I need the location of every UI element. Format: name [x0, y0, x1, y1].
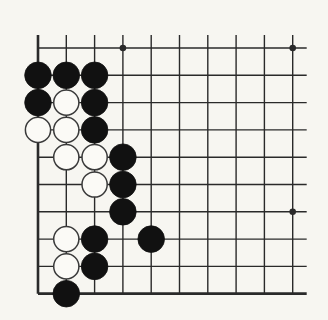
black-stone	[110, 144, 137, 171]
black-stone	[110, 199, 137, 226]
black-stone	[81, 226, 108, 253]
black-stone	[25, 62, 52, 89]
black-stone	[110, 171, 137, 198]
go-diagram	[0, 0, 328, 320]
black-stone	[53, 62, 80, 89]
go-board	[0, 0, 328, 320]
black-stone	[81, 62, 108, 89]
white-stone	[54, 117, 79, 142]
black-stone	[81, 253, 108, 280]
white-stone	[54, 227, 79, 252]
black-stone	[25, 89, 52, 116]
star-point-icon	[289, 209, 296, 216]
white-stone	[25, 117, 50, 142]
black-stone	[81, 117, 108, 144]
white-stone	[54, 145, 79, 170]
white-stone	[82, 145, 107, 170]
star-point-icon	[120, 45, 127, 52]
star-point-icon	[289, 45, 296, 52]
black-stone	[138, 226, 165, 253]
white-stone	[82, 172, 107, 197]
black-stone	[53, 280, 80, 307]
black-stone	[81, 89, 108, 116]
white-stone	[54, 254, 79, 279]
white-stone	[54, 90, 79, 115]
